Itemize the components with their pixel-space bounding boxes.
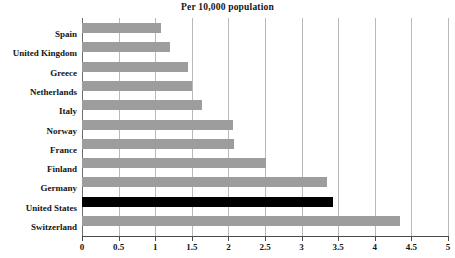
bar-row	[82, 42, 448, 52]
bar-row	[82, 216, 448, 226]
bar-norway	[82, 120, 233, 130]
x-tick-label: 2	[208, 242, 248, 252]
bar-row	[82, 158, 448, 168]
x-tick	[265, 237, 266, 241]
y-axis-label-switzerland: Switzerland	[0, 216, 77, 226]
x-tick	[411, 237, 412, 241]
bar-finland	[82, 158, 266, 168]
bar-row	[82, 197, 448, 207]
bar-switzerland	[82, 216, 400, 226]
y-axis-label-text: United States	[26, 203, 77, 213]
x-tick	[448, 237, 449, 241]
y-axis-label-text: France	[50, 145, 77, 155]
x-tick	[192, 237, 193, 241]
y-axis-label-text: Norway	[47, 126, 78, 136]
x-tick-label: 4.5	[391, 242, 431, 252]
gridline	[448, 18, 449, 236]
x-tick	[82, 237, 83, 241]
y-axis-label-text: United Kingdom	[13, 48, 77, 58]
chart-subtitle: Per 10,000 population	[0, 2, 455, 12]
bar-row	[82, 177, 448, 187]
x-tick-label: 4	[355, 242, 395, 252]
y-axis-label-text: Germany	[41, 183, 78, 193]
x-tick-label: 5	[428, 242, 455, 252]
bar-united-states	[82, 197, 333, 207]
y-axis-labels: SpainUnited KingdomGreeceNetherlandsItal…	[0, 18, 77, 236]
bar-row	[82, 23, 448, 33]
x-tick-label: 0	[62, 242, 102, 252]
bar-united-kingdom	[82, 42, 170, 52]
x-tick	[228, 237, 229, 241]
y-axis-label-text: Finland	[47, 164, 77, 174]
bar-spain	[82, 23, 161, 33]
x-tick-label: 3	[282, 242, 322, 252]
y-axis-label-germany: Germany	[0, 177, 77, 187]
y-axis-label-france: France	[0, 139, 77, 149]
bar-row	[82, 62, 448, 72]
y-axis-label-text: Spain	[55, 29, 77, 39]
bar-germany	[82, 177, 327, 187]
x-tick-label: 2.5	[245, 242, 285, 252]
y-axis-label-text: Italy	[59, 106, 77, 116]
x-tick-label: 1	[135, 242, 175, 252]
y-axis-label-finland: Finland	[0, 158, 77, 168]
y-axis-label-norway: Norway	[0, 120, 77, 130]
y-axis-label-text: Greece	[50, 68, 77, 78]
bar-france	[82, 139, 234, 149]
bar-row	[82, 81, 448, 91]
bar-italy	[82, 100, 202, 110]
x-tick	[338, 237, 339, 241]
y-axis-label-netherlands: Netherlands	[0, 81, 77, 91]
bar-greece	[82, 62, 188, 72]
y-axis-label-text: Netherlands	[30, 87, 77, 97]
bar-row	[82, 120, 448, 130]
bar-chart: Per 10,000 population SpainUnited Kingdo…	[0, 0, 455, 258]
y-axis-label-greece: Greece	[0, 62, 77, 72]
bar-row	[82, 100, 448, 110]
x-tick	[375, 237, 376, 241]
x-tick	[302, 237, 303, 241]
x-tick-label: 1.5	[172, 242, 212, 252]
x-tick	[155, 237, 156, 241]
plot-area	[82, 18, 448, 236]
y-axis-label-italy: Italy	[0, 100, 77, 110]
y-axis-label-spain: Spain	[0, 23, 77, 33]
bar-netherlands	[82, 81, 192, 91]
x-tick	[119, 237, 120, 241]
x-tick-label: 0.5	[99, 242, 139, 252]
x-tick-label: 3.5	[318, 242, 358, 252]
y-axis-label-united-kingdom: United Kingdom	[0, 42, 77, 52]
bar-row	[82, 139, 448, 149]
y-axis-label-text: Switzerland	[31, 222, 77, 232]
y-axis-label-united-states: United States	[0, 197, 77, 207]
